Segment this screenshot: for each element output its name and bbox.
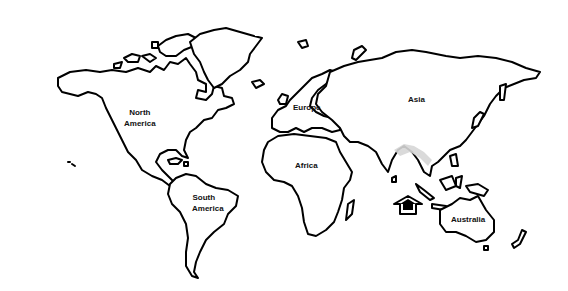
- label-line: South: [184, 192, 224, 203]
- tasmania-shape: [484, 246, 488, 250]
- borneo-shape: [440, 176, 456, 190]
- label-australia: Australia: [451, 214, 485, 225]
- world-map: [0, 0, 568, 291]
- label-line: America: [124, 118, 156, 129]
- label-line: Australia: [451, 214, 485, 225]
- label-north-america: North America: [124, 107, 156, 129]
- britain-shape: [278, 94, 288, 104]
- arctic-island: [152, 42, 158, 48]
- madagascar-shape: [346, 200, 354, 220]
- label-line: Europe: [293, 102, 321, 113]
- africa-shape: [262, 134, 352, 236]
- sulawesi-shape: [456, 176, 462, 188]
- label-africa: Africa: [295, 160, 318, 171]
- label-line: North: [124, 107, 156, 118]
- label-asia: Asia: [408, 94, 425, 105]
- svalbard-shape: [298, 40, 308, 48]
- arctic-island: [114, 62, 122, 68]
- new-zealand-shape: [512, 230, 526, 248]
- caribbean-islands: [168, 158, 182, 164]
- new-guinea-shape: [466, 184, 488, 196]
- south-america-shape: [168, 174, 238, 278]
- label-south-america: South America: [184, 192, 224, 214]
- greenland-shape: [190, 28, 262, 88]
- aleutian-islands: [68, 162, 75, 166]
- sri-lanka-shape: [392, 176, 396, 182]
- arctic-island: [142, 54, 156, 62]
- house-icon[interactable]: [394, 196, 422, 214]
- label-line: Asia: [408, 94, 425, 105]
- iceland-shape: [252, 80, 264, 88]
- philippines-shape: [450, 154, 458, 166]
- sumatra-shape: [416, 184, 434, 200]
- label-line: Africa: [295, 160, 318, 171]
- caribbean-islands: [184, 162, 188, 166]
- sakhalin-shape: [500, 84, 506, 100]
- novaya-zemlya: [352, 46, 366, 60]
- label-line: America: [192, 203, 224, 214]
- arctic-island: [124, 54, 140, 62]
- label-europe: Europe: [293, 102, 321, 113]
